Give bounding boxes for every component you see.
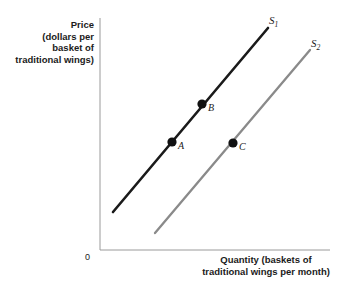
curve-label-s2: S2 (311, 37, 320, 52)
y-axis-title-line2: (dollars per (42, 31, 94, 42)
x-axis-title: Quantity (baskets of traditional wings p… (196, 254, 336, 277)
curve-label-s2-subscript: 2 (317, 43, 321, 52)
x-axis-title-line1: Quantity (baskets of (220, 254, 311, 265)
y-axis-title-line1: Price (71, 19, 94, 30)
curve-label-s1: S1 (269, 14, 278, 29)
origin-label: 0 (85, 252, 90, 262)
supply-curve-s1 (113, 28, 268, 212)
point-label-a: A (178, 140, 184, 151)
data-point-b (197, 99, 206, 108)
supply-curve-figure: Price (dollars per basket of traditional… (0, 0, 338, 291)
point-label-c: C (239, 141, 246, 152)
point-label-b: B (208, 102, 214, 113)
curve-label-s1-subscript: 1 (275, 20, 279, 29)
x-axis-title-line2: traditional wings per month) (202, 266, 330, 277)
y-axis-title-line3: basket of (52, 42, 94, 53)
data-point-a (167, 137, 176, 146)
data-point-c (228, 138, 237, 147)
y-axis-title-line4: traditional wings) (15, 54, 94, 65)
y-axis-title: Price (dollars per basket of traditional… (6, 19, 94, 65)
